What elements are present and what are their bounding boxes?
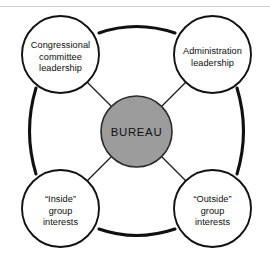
node-label-inside-line-2: group bbox=[49, 206, 73, 216]
node-label-administration-line-1: Administration bbox=[183, 46, 242, 56]
ring-arc-right bbox=[237, 88, 244, 174]
spoke-bottom-left bbox=[86, 157, 111, 182]
center-label-bureau: BUREAU bbox=[111, 126, 163, 138]
ring-arc-bottom bbox=[99, 229, 175, 236]
diagram-canvas: Congressional committee leadership Admin… bbox=[0, 0, 270, 256]
node-label-inside-line-1: “Inside” bbox=[45, 194, 76, 204]
node-label-outside-line-2: group bbox=[201, 206, 225, 216]
node-label-administration-line-2: leadership bbox=[191, 58, 234, 68]
ring-arc-top bbox=[99, 27, 175, 34]
node-label-congressional-line-1: Congressional bbox=[31, 40, 90, 50]
node-label-inside-line-3: interests bbox=[43, 217, 79, 227]
spoke-top-right bbox=[162, 81, 187, 106]
spoke-bottom-right bbox=[162, 157, 187, 182]
node-label-congressional-line-2: committee bbox=[39, 52, 82, 62]
spoke-top-left bbox=[86, 81, 111, 106]
node-label-outside-line-1: “Outside” bbox=[193, 194, 231, 204]
node-label-outside-line-3: interests bbox=[195, 217, 231, 227]
ring-arc-left bbox=[30, 88, 37, 174]
bureau-environment-diagram: Congressional committee leadership Admin… bbox=[0, 0, 270, 256]
node-label-congressional-line-3: leadership bbox=[39, 63, 82, 73]
